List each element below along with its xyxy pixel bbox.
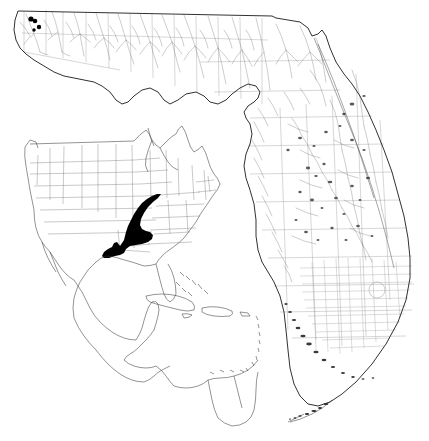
us-state-boundaries: [30, 144, 216, 252]
north-america-inset-layer: [0, 0, 429, 441]
distribution-map-figure: Florida North America western panhandle …: [0, 0, 429, 441]
species-range-shading: [102, 194, 161, 258]
north-america-coastline: [25, 126, 260, 426]
